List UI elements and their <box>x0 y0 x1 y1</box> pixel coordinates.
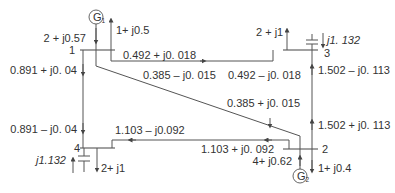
capacitor-bus-3: j1. 132 <box>306 33 360 50</box>
capacitor-bus-4: j1.132 <box>34 148 90 173</box>
bus-3: 3 <box>283 47 330 59</box>
power-flow-diagram: 1 3 4 2 G1 2 + j0.57 1+ j0.5 0.492 + j0.… <box>0 0 395 193</box>
bus-3-label: 3 <box>324 47 330 59</box>
bus-2-label: 2 <box>322 143 328 155</box>
load-bus-1-label: 1+ j0.5 <box>116 24 149 36</box>
load-bus-1: 1+ j0.5 <box>111 20 149 50</box>
bus-2: 2 <box>283 143 328 155</box>
line-1-2-from-flow: 0.385 – j0. 015 <box>143 69 216 81</box>
line-1-2-to-flow: 0.385 + j0. 015 <box>227 97 300 109</box>
generator-g1-label: G1 <box>93 11 106 24</box>
load-bus-2-label: 1+ j0.4 <box>318 162 351 174</box>
line-1-4-to-flow: 0.891 – j0. 04 <box>10 123 77 135</box>
capacitor-bus-4-label: j1.132 <box>34 154 66 166</box>
bus-1: 1 <box>69 44 115 56</box>
generator-g2: G2 4+ j0.62 <box>253 149 310 183</box>
line-3-2-to-flow: 1.502 + j0. 113 <box>318 119 390 131</box>
load-bus-3: 2 + j1 <box>256 26 287 50</box>
load-bus-2: 1+ j0.4 <box>312 160 351 174</box>
line-1-3-from-flow: 0.492 + j0. 018 <box>123 49 196 61</box>
g2-injection-label: 4+ j0.62 <box>253 155 292 167</box>
load-bus-4: 2+ j1 <box>97 148 125 174</box>
line-2-4-to-flow: 1.103 – j0.092 <box>115 124 185 136</box>
bus-4-label: 4 <box>74 142 80 154</box>
line-1-4-from-flow: 0.891 + j0. 04 <box>10 64 77 76</box>
line-2-4: 1.103 + j0. 092 1.103 – j0.092 <box>112 124 289 155</box>
line-1-4: 0.891 + j0. 04 0.891 – j0. 04 <box>10 50 83 148</box>
bus-4: 4 <box>74 142 115 154</box>
generator-g1: G1 2 + j0.57 <box>43 10 105 66</box>
generator-g2-label: G2 <box>297 170 310 183</box>
capacitor-bus-3-label: j1. 132 <box>325 34 360 46</box>
load-bus-4-label: 2+ j1 <box>101 162 125 174</box>
g1-injection-label: 2 + j0.57 <box>43 32 86 44</box>
line-3-2-from-flow: 1.502 – j0. 113 <box>318 64 390 76</box>
line-2-4-from-flow: 1.103 + j0. 092 <box>201 143 274 155</box>
bus-1-label: 1 <box>69 44 75 56</box>
line-1-3-to-flow: 0.492 – j0. 018 <box>228 69 301 81</box>
load-bus-3-label: 2 + j1 <box>256 26 283 38</box>
